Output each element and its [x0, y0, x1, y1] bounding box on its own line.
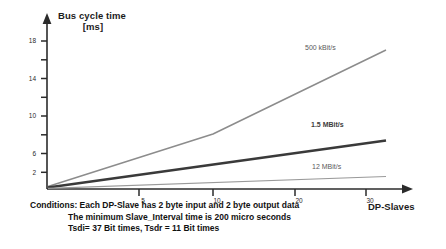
y-axis-title-text: Bus cycle time [58, 10, 126, 21]
x-tick-label-30: 30 [362, 197, 378, 204]
series-label-15mbits: 1.5 MBit/s [311, 121, 344, 128]
y-tick-label-a14: 14 [22, 75, 36, 82]
caption-line-3: Tsdi= 37 Bit times, Tsdr = 11 Bit times [30, 223, 299, 235]
y-axis [43, 13, 52, 189]
caption-line-2: The minimum Slave_Interval time is 200 m… [30, 212, 299, 224]
y-axis-unit: [ms] [58, 21, 126, 32]
y-axis-ticks [41, 41, 47, 172]
y-tick-label-a6: 6 [22, 150, 36, 157]
series-label-12mbits: 12 MBit/s [312, 163, 341, 170]
series-label-500kbits: 500 kBit/s [305, 44, 336, 51]
caption-line-1: Conditions: Each DP-Slave has 2 byte inp… [30, 200, 299, 210]
chart-caption: Conditions: Each DP-Slave has 2 byte inp… [30, 200, 299, 235]
y-tick-label-a2: 2 [22, 169, 36, 176]
x-axis-ticks [139, 189, 366, 196]
chart-figure: Bus cycle time [ms] DP-Slaves 18 14 10 6… [0, 0, 446, 249]
series-line-12mbits [48, 177, 386, 189]
y-tick-label-a18: 18 [22, 37, 36, 44]
y-tick-label-a10: 10 [22, 112, 36, 119]
y-axis-title: Bus cycle time [ms] [58, 10, 126, 32]
